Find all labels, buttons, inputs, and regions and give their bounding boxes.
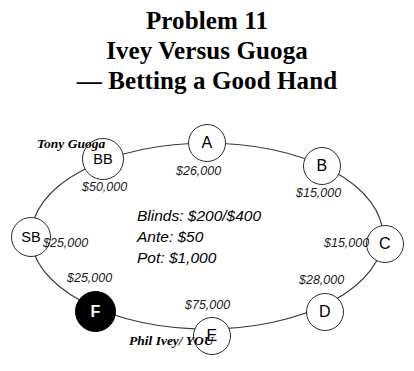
seat-f[interactable]: F [75, 291, 116, 332]
seat-bb-stack: $50,000 [82, 180, 127, 194]
blinds-text: Blinds: $200/$400 [137, 205, 261, 226]
seat-b[interactable]: B [303, 147, 341, 185]
ante-text: Ante: $50 [137, 226, 261, 247]
player-tag-guoga-line-1: Tony [37, 136, 64, 151]
seat-a[interactable]: A [188, 124, 226, 162]
seat-c-stack: $15,000 [324, 236, 369, 250]
seat-f-label: F [91, 303, 101, 321]
table-center-info: Blinds: $200/$400 Ante: $50 Pot: $1,000 [137, 205, 261, 268]
seat-c-label: C [379, 235, 391, 253]
player-tag-phil-ivey: Phil Ivey/ YOU [129, 333, 214, 348]
seat-a-label: A [202, 134, 213, 152]
seat-bb-label: BB [93, 151, 113, 167]
seat-sb-stack: $25,000 [43, 236, 88, 250]
seat-d-label: D [319, 303, 331, 321]
seat-b-label: B [317, 157, 328, 175]
seat-d[interactable]: D [306, 293, 344, 331]
title-line-3: — Betting a Good Hand [0, 66, 414, 96]
player-tag-guoga-line-2: Guoga [68, 136, 106, 151]
poker-problem-figure: Problem 11 Ivey Versus Guoga — Betting a… [0, 0, 414, 371]
player-tag-ivey-line-2: YOU [186, 333, 214, 348]
player-tag-ivey-line-1: Phil Ivey/ [129, 333, 183, 348]
seat-c[interactable]: C [366, 225, 404, 263]
title-line-1: Problem 11 [0, 6, 414, 36]
player-tag-tony-guoga: Tony Guoga [37, 136, 105, 151]
seat-b-stack: $15,000 [296, 186, 341, 200]
seat-sb-label: SB [21, 229, 41, 245]
title-line-2: Ivey Versus Guoga [0, 36, 414, 66]
poker-table-diagram: BB $50,000 A $26,000 B $15,000 C $15,000… [0, 118, 414, 371]
seat-e-stack: $75,000 [185, 298, 230, 312]
seat-a-stack: $26,000 [176, 164, 221, 178]
page-title: Problem 11 Ivey Versus Guoga — Betting a… [0, 6, 414, 96]
seat-d-stack: $28,000 [299, 273, 344, 287]
seat-f-stack: $25,000 [67, 271, 112, 285]
pot-text: Pot: $1,000 [137, 247, 261, 268]
